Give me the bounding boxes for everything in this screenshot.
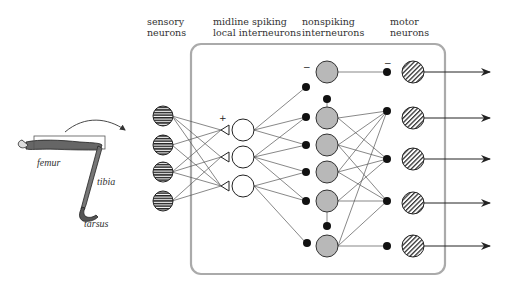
nonspiking-interneuron [316, 134, 338, 156]
label-sensory-line1: sensory [147, 16, 185, 27]
synapse-dot [383, 242, 391, 250]
label-nonspiking-line1: nonspiking [302, 16, 355, 27]
label-tibia: tibia [97, 176, 115, 187]
sensory-neuron [153, 135, 173, 155]
midline-to-nonspiking-connections [254, 87, 306, 243]
nonspiking-interneuron [316, 61, 338, 83]
nonspiking-to-motor-connections [327, 72, 387, 246]
nonspiking-interneuron [316, 235, 338, 257]
midline-interneuron [232, 146, 254, 168]
midline-interneurons [232, 119, 254, 197]
midline-interneuron [232, 175, 254, 197]
synapse-dot [302, 141, 310, 149]
curved-arrow-icon [65, 120, 125, 132]
label-tarsus: tarsus [84, 218, 109, 229]
synapse-dot [383, 155, 391, 163]
plus-sign: + [219, 113, 227, 123]
synapse-dot [383, 197, 391, 205]
nonspiking-interneuron [316, 161, 338, 183]
motor-neuron [402, 107, 424, 129]
sensory-neuron [153, 191, 173, 211]
triangle-synapse-icon [221, 125, 229, 135]
motor-neuron [402, 192, 424, 214]
synapse-dot [383, 107, 391, 115]
nonspiking-interneuron [316, 107, 338, 129]
column-labels: sensory neurons midline spiking local in… [147, 16, 429, 38]
output-arrows [424, 72, 490, 246]
label-motor-line2: neurons [390, 27, 429, 38]
minus-sign-nonspiking: − [303, 62, 311, 72]
synapse-dot [302, 83, 310, 91]
nonspiking-interneuron [316, 190, 338, 212]
motor-neuron [402, 148, 424, 170]
synapse-dot [383, 68, 391, 76]
label-midline-line2: local interneurons [213, 27, 301, 38]
sensory-neurons [153, 106, 173, 211]
leg-illustration: femur tibia tarsus [18, 120, 125, 229]
triangle-synapse-icon [221, 181, 229, 191]
synapse-dot [323, 222, 331, 230]
label-midline-line1: midline spiking [213, 16, 287, 27]
synapse-dot [303, 239, 311, 247]
synapse-dot [302, 197, 310, 205]
sensory-neuron [153, 162, 173, 182]
motor-neuron [402, 61, 424, 83]
label-nonspiking-line2: interneurons [302, 27, 364, 38]
motor-neurons [402, 61, 424, 257]
synapse-dot [323, 95, 331, 103]
triangle-synapse-icon [221, 152, 229, 162]
synapse-dot [302, 168, 310, 176]
femur-segment [26, 140, 102, 150]
label-motor-line1: motor [390, 16, 419, 27]
sensory-neuron [153, 106, 173, 126]
excitatory-synapses [221, 125, 229, 191]
label-sensory-line2: neurons [147, 27, 186, 38]
neural-circuit-diagram: sensory neurons midline spiking local in… [0, 0, 507, 287]
midline-interneuron [232, 119, 254, 141]
sensory-to-midline-connections [172, 116, 221, 201]
synapse-dot [302, 113, 310, 121]
label-femur: femur [37, 157, 60, 168]
motor-neuron [402, 235, 424, 257]
coxa-joint [18, 140, 28, 148]
minus-sign-motor: − [384, 58, 392, 68]
